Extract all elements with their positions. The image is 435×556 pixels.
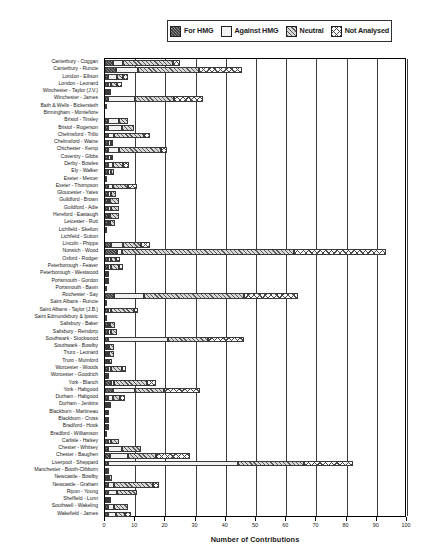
- bar-segment-neutral: [122, 249, 294, 255]
- bar-segment-neutral: [135, 96, 174, 102]
- bar-segment-neutral: [111, 191, 116, 197]
- bar-row: [105, 169, 114, 175]
- y-axis-label: Durham - Jenkins: [59, 401, 98, 406]
- bar-segment-for: [105, 286, 107, 292]
- bar-row: [105, 242, 150, 248]
- bar-row: [105, 424, 109, 430]
- y-axis-label: Truro - Mumford: [62, 358, 98, 363]
- bar-row: [105, 395, 125, 401]
- x-axis-title: Number of Contributions: [104, 535, 406, 544]
- y-axis-label: Bradford - Hook: [63, 423, 98, 428]
- bar-segment-neutral: [111, 439, 119, 445]
- y-axis-label: Winchester - James: [54, 95, 98, 100]
- y-axis-label: Southwark - Stockwood: [46, 336, 98, 341]
- y-axis-label: Derby - Bowles: [64, 161, 98, 166]
- bar-segment-neutral: [107, 417, 109, 423]
- bar-segment-neutral: [111, 169, 114, 175]
- bar-row: [105, 96, 203, 102]
- x-axis-tick: [285, 517, 286, 521]
- bar-segment-neutral: [238, 461, 304, 467]
- bar-segment-neutral: [113, 184, 128, 190]
- y-axis-label: Gloucester - Yates: [57, 190, 98, 195]
- x-axis-tick-label: 90: [373, 523, 379, 528]
- bar-segment-neutral: [110, 322, 115, 328]
- bar-row: [105, 417, 109, 423]
- x-axis-tick: [255, 517, 256, 521]
- bar-segment-for: [105, 315, 107, 321]
- bar-segment-notan: [123, 74, 128, 80]
- y-axis-label: Durham - Habgood: [55, 394, 98, 399]
- bar-segment-notan: [153, 482, 159, 488]
- bar-row: [105, 257, 120, 263]
- bar-segment-neutral: [122, 125, 134, 131]
- y-axis-label: Coventry - Gibbs: [61, 154, 98, 159]
- bar-row: [105, 490, 137, 496]
- bar-segment-notan: [199, 67, 243, 73]
- bar-row: [105, 74, 128, 80]
- bar-row: [105, 402, 111, 408]
- y-axis-label: Guildford - Adie: [64, 205, 98, 210]
- y-axis-label: York - Habgood: [63, 387, 98, 392]
- bar-segment-against: [110, 453, 128, 459]
- y-axis-label: Chichester - Kemp: [57, 146, 98, 151]
- y-axis-label: Canterbury - Runcie: [53, 66, 98, 71]
- y-axis-label: Bristol - Rogerson: [58, 125, 98, 130]
- bar-row: [105, 300, 107, 306]
- x-axis-tick: [164, 517, 165, 521]
- y-axis-label: Worcester - Woods: [55, 365, 98, 370]
- bar-segment-neutral: [107, 410, 109, 416]
- bar-segment-neutral: [119, 118, 128, 124]
- bar-row: [105, 155, 113, 161]
- bar-segment-for: [105, 176, 107, 182]
- bar-segment-notan: [123, 162, 129, 168]
- bar-segment-neutral: [107, 271, 109, 277]
- x-axis-tick: [134, 517, 135, 521]
- bar-segment-notan: [116, 257, 121, 263]
- bar-row: [105, 359, 112, 365]
- bar-segment-against: [108, 118, 119, 124]
- bar-segment-neutral: [168, 337, 207, 343]
- y-axis-label: York - Blanch: [69, 380, 98, 385]
- y-axis-label: Chelmsford - Trillo: [58, 132, 98, 137]
- x-axis-tick-label: 20: [161, 523, 167, 528]
- y-axis-label: Chelmsford - Waine: [54, 139, 98, 144]
- bar-segment-neutral: [110, 213, 119, 219]
- legend-item-not-analysed: Not Analysed: [331, 26, 389, 37]
- legend-label-against-hmg: Against HMG: [235, 27, 279, 34]
- bar-row: [105, 329, 117, 335]
- x-axis-tick: [104, 517, 105, 521]
- x-axis-tick-label: 50: [252, 523, 258, 528]
- bar-segment-notan: [120, 395, 125, 401]
- bar-segment-neutral: [110, 198, 119, 204]
- bar-segment-for: [105, 388, 113, 394]
- x-axis-tick-label: 30: [192, 523, 198, 528]
- bar-row: [105, 104, 107, 110]
- bar-row: [105, 184, 137, 190]
- bar-segment-neutral: [128, 453, 157, 459]
- bar-segment-neutral: [119, 147, 161, 153]
- bar-row: [105, 264, 123, 270]
- bar-row: [105, 504, 128, 510]
- bar-segment-neutral: [109, 359, 112, 365]
- bar-row: [105, 380, 156, 386]
- y-axis-label: Newcastle - Graham: [52, 482, 98, 487]
- y-axis-label: Exeter - Thompson: [56, 183, 98, 188]
- y-axis-label: Saint Albans - Runcie: [50, 299, 98, 304]
- bar-segment-neutral: [109, 344, 114, 350]
- bar-segment-against: [113, 388, 136, 394]
- bar-segment-neutral: [110, 220, 115, 226]
- bar-row: [105, 213, 119, 219]
- bar-row: [105, 431, 107, 437]
- y-axis-label: Manchester - Booth-Clibborn: [34, 467, 98, 472]
- x-axis-tick-label: 10: [131, 523, 137, 528]
- bar-segment-against: [108, 147, 119, 153]
- bar-row: [105, 315, 107, 321]
- bar-row: [105, 439, 119, 445]
- bar-segment-neutral: [111, 308, 134, 314]
- bar-row: [105, 82, 122, 88]
- y-axis-label: Salisbury - Baker: [60, 321, 98, 326]
- y-axis-label: Winchester - Taylor (J.V.): [43, 88, 98, 93]
- bar-segment-for: [105, 300, 107, 306]
- bar-segment-against: [108, 490, 117, 496]
- bar-segment-notan: [119, 264, 124, 270]
